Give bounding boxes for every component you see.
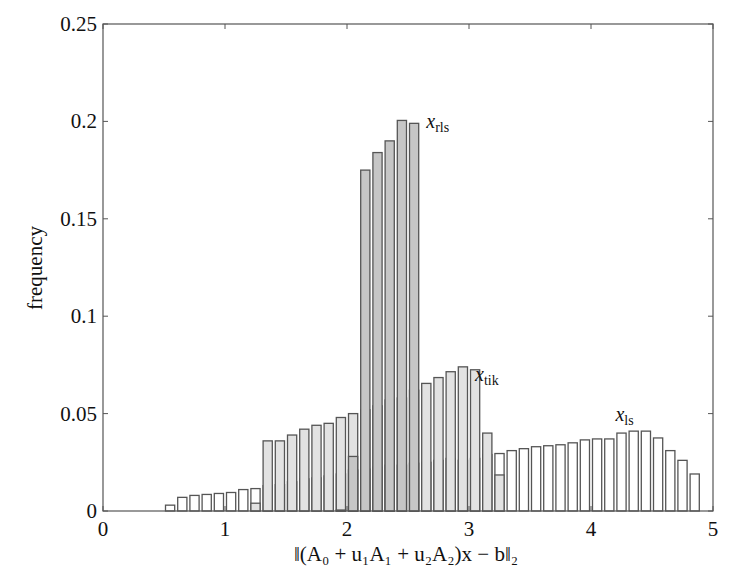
- histogram-chart: 00.050.10.150.20.25 012345 frequency ‖(A…: [0, 0, 733, 581]
- histogram-bar: [312, 425, 321, 511]
- histogram-bar: [397, 120, 406, 511]
- y-tick-label: 0.15: [60, 207, 97, 231]
- histogram-bar: [629, 431, 638, 511]
- x-axis-label: ‖(A₀ + u₁A₁ + u₂A₂)x − b‖₂: [294, 542, 518, 566]
- histogram-bar: [434, 378, 443, 511]
- series-label-x-rls: xrls: [425, 110, 449, 135]
- histogram-bar: [495, 475, 504, 511]
- histogram-bar: [446, 372, 455, 511]
- histogram-bar: [507, 451, 516, 511]
- histogram-bar: [336, 417, 345, 511]
- y-axis-label: frequency: [23, 226, 47, 310]
- histogram-bar: [544, 446, 553, 511]
- histogram-bar: [214, 493, 223, 511]
- histogram-bar: [532, 447, 541, 511]
- series-label-x-tik: xtik: [474, 363, 499, 388]
- histogram-bar: [178, 497, 187, 511]
- histogram-bar: [519, 449, 528, 511]
- histogram-bar: [385, 141, 394, 511]
- histogram-bar: [324, 423, 333, 511]
- y-tick-label: 0.05: [60, 402, 97, 426]
- histogram-bar: [483, 433, 492, 511]
- histogram-bar: [373, 153, 382, 511]
- histogram-bar: [654, 438, 663, 511]
- x-tick-label: 0: [98, 517, 109, 541]
- x-tick-label: 3: [464, 517, 475, 541]
- histogram-bar: [190, 495, 199, 511]
- y-tick-labels: 00.050.10.150.20.25: [60, 12, 97, 523]
- x-tick-label: 4: [586, 517, 597, 541]
- histogram-bar: [239, 490, 248, 511]
- histogram-bar: [275, 441, 284, 511]
- histogram-bar: [568, 443, 577, 511]
- histogram-bar: [580, 440, 589, 511]
- histogram-bar: [349, 456, 358, 511]
- histogram-bar: [166, 505, 175, 511]
- y-tick-label: 0.1: [71, 304, 97, 328]
- series-x-ls-bars: [166, 431, 700, 511]
- histogram-bar: [410, 123, 419, 511]
- series-labels: xrlsxtikxls: [425, 110, 633, 427]
- histogram-bar: [678, 460, 687, 511]
- histogram-bar: [593, 439, 602, 511]
- histogram-bar: [361, 170, 370, 511]
- histogram-bar: [300, 429, 309, 511]
- y-tick-label: 0: [87, 499, 98, 523]
- histogram-bar: [617, 433, 626, 511]
- histogram-bar: [471, 370, 480, 511]
- x-tick-label: 1: [220, 517, 231, 541]
- histogram-bar: [641, 431, 650, 511]
- histogram-bar: [227, 492, 236, 511]
- histogram-bar: [251, 503, 260, 511]
- histogram-bar: [605, 439, 614, 511]
- histogram-bar: [556, 445, 565, 511]
- y-tick-label: 0.2: [71, 109, 97, 133]
- histogram-bar: [666, 451, 675, 511]
- x-tick-label: 5: [708, 517, 719, 541]
- histogram-bar: [690, 474, 699, 511]
- series-label-x-ls: xls: [614, 403, 633, 428]
- x-tick-labels: 012345: [98, 517, 719, 541]
- histogram-bar: [202, 494, 211, 511]
- histogram-bar: [458, 367, 467, 511]
- x-tick-label: 2: [342, 517, 353, 541]
- y-tick-label: 0.25: [60, 12, 97, 36]
- histogram-bar: [422, 383, 431, 511]
- histogram-bar: [288, 435, 297, 511]
- histogram-bar: [263, 441, 272, 511]
